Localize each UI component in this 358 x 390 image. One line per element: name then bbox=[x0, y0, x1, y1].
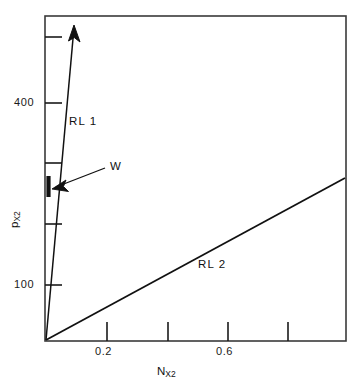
y-axis-title: pX2 bbox=[8, 211, 22, 228]
y-axis-title-sub: X bbox=[12, 216, 22, 222]
y-tick-label-100: 100 bbox=[14, 278, 34, 290]
rl1-arrowhead bbox=[69, 25, 81, 42]
annotation-label-w: W bbox=[110, 160, 121, 172]
figure-container: 400 100 0.2 0.6 RL 1 RL 2 W NX2 pX2 bbox=[0, 0, 358, 390]
plot-canvas bbox=[0, 0, 358, 390]
y-tick-label-400: 400 bbox=[14, 96, 34, 108]
rl2-line bbox=[46, 178, 345, 340]
series-label-rl2: RL 2 bbox=[198, 258, 226, 270]
y-axis-ticks bbox=[45, 37, 62, 285]
x-axis-title-sub2: 2 bbox=[171, 369, 176, 379]
x-tick-label-0-2: 0.2 bbox=[95, 345, 112, 357]
y-axis-title-base: p bbox=[8, 222, 20, 228]
x-axis-ticks bbox=[107, 322, 288, 341]
x-axis-title: NX2 bbox=[157, 365, 176, 379]
plot-frame bbox=[45, 16, 346, 341]
series-label-rl1: RL 1 bbox=[69, 115, 97, 127]
frame-rect bbox=[45, 16, 346, 341]
y-axis-title-sub2: 2 bbox=[12, 211, 22, 216]
series-rl2 bbox=[46, 178, 345, 340]
x-tick-label-0-6: 0.6 bbox=[216, 345, 233, 357]
